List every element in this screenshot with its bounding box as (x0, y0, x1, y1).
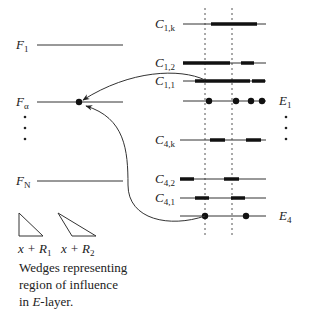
wedge-r1-label: x + R1 (18, 242, 51, 258)
f-vertical-ellipsis (24, 116, 27, 141)
c4k-label: C4,k (155, 133, 175, 149)
wedge-r1-icon (19, 213, 43, 236)
dashed-guides (205, 8, 232, 236)
f1-label: F1 (16, 38, 28, 54)
caption-line-3: in E-layer. (19, 293, 73, 310)
caption-line-1: Wedges representing (19, 259, 127, 276)
c42-label: C4,2 (155, 172, 175, 188)
e-vertical-ellipsis (285, 116, 288, 141)
c12-label: C1,2 (155, 56, 175, 72)
f-layer-lines (37, 45, 123, 181)
e-layer-lines (180, 101, 266, 216)
falpha-node (76, 99, 82, 105)
c1k-label: C1,k (155, 17, 175, 33)
c-layer-bars (180, 24, 265, 198)
arrow-c11-to-falpha (83, 73, 205, 100)
fn-label: FN (16, 174, 30, 190)
c11-label: C1,1 (155, 74, 175, 90)
wedge-r2-label: x + R2 (61, 242, 94, 258)
wedge-r2-icon (58, 213, 96, 236)
e1-label: E1 (279, 94, 291, 110)
e-layer-nodes (202, 98, 265, 219)
c-layer-lines (180, 24, 266, 198)
caption-line-2: region of influence (19, 276, 118, 293)
arrow-e4-to-falpha (86, 106, 205, 221)
falpha-label: Fα (16, 95, 29, 111)
diagram-canvas: F1 Fα FN C1,k C1,2 C1,1 C4,k C4,2 C4,1 E… (0, 0, 309, 315)
c41-label: C4,1 (155, 191, 175, 207)
e4-label: E4 (279, 209, 291, 225)
